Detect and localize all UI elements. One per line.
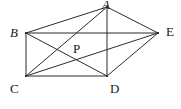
point-label-b: B <box>10 26 18 39</box>
point-label-a: A <box>102 0 110 11</box>
vertex-dot-d <box>106 75 108 77</box>
geometry-canvas <box>0 0 181 109</box>
segment-A-C <box>26 7 107 76</box>
segment-C-E <box>26 33 158 76</box>
segment-D-E <box>107 33 158 76</box>
vertex-dot-b <box>25 32 27 34</box>
point-label-e: E <box>166 25 174 38</box>
segment-B-D <box>26 33 107 76</box>
segment-layer <box>26 7 158 76</box>
point-layer <box>25 6 159 77</box>
geometry-figure: ABEPCD <box>0 0 181 109</box>
segment-A-E <box>107 7 158 33</box>
vertex-dot-c <box>25 75 27 77</box>
segment-A-B <box>26 7 107 33</box>
vertex-dot-e <box>157 32 159 34</box>
point-label-p: P <box>73 42 80 55</box>
point-label-d: D <box>110 82 119 95</box>
point-label-c: C <box>10 82 19 95</box>
